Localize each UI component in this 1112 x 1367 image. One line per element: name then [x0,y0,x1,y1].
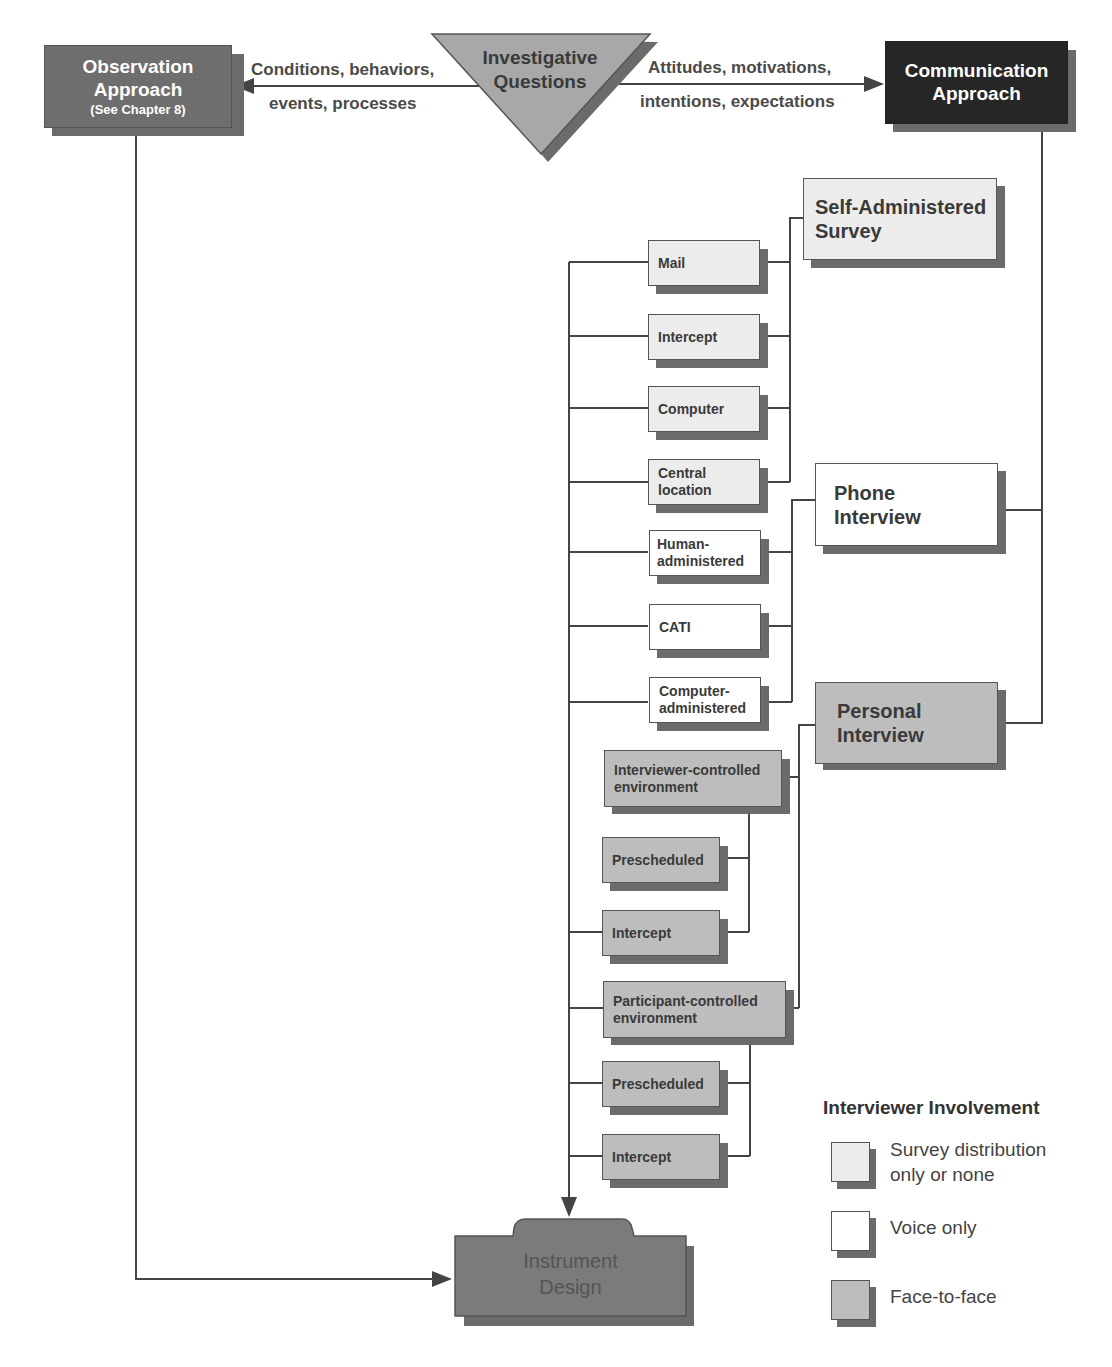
legend-survey-line2: only or none [890,1163,1046,1188]
legend-survey-line1: Survey distribution [890,1138,1046,1163]
instrument-line1: Instrument [455,1248,686,1274]
legend-swatch-face [831,1280,870,1320]
legend-swatch-voice [831,1211,870,1251]
legend-label-voice: Voice only [890,1216,977,1241]
instrument-design-node[interactable]: Instrument Design [455,1248,686,1300]
legend-title: Interviewer Involvement [823,1097,1039,1119]
legend-swatch-survey [831,1142,870,1182]
legend-label-face: Face-to-face [890,1285,997,1310]
legend-label-survey: Survey distribution only or none [890,1138,1046,1187]
instrument-line2: Design [455,1274,686,1300]
